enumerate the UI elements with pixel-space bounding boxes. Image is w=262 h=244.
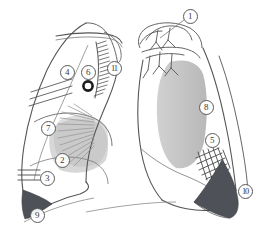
left-lung-outline [22, 23, 86, 200]
right-lung-consolidation-shading [157, 61, 207, 169]
left-lung-drawing [18, 23, 122, 222]
marker-5[interactable]: 5 [205, 133, 220, 148]
marker-10[interactable]: 10 [238, 184, 253, 199]
marker-11[interactable]: 11 [107, 61, 122, 76]
marker-1[interactable]: 1 [183, 9, 198, 24]
marker-4[interactable]: 4 [60, 65, 75, 80]
marker-9[interactable]: 9 [30, 208, 45, 223]
marker-7[interactable]: 7 [41, 121, 56, 136]
marker-3[interactable]: 3 [40, 171, 55, 186]
marker-8[interactable]: 8 [199, 100, 214, 115]
right-lung-lower-outline-extension [86, 202, 176, 212]
marker-6[interactable]: 6 [81, 65, 96, 80]
right-lung-drawing [86, 20, 248, 218]
left-lung-apex-curve [86, 23, 118, 66]
kerley-lines-group [29, 79, 72, 106]
lung-diagram-figure: 1 2 3 4 5 6 7 8 9 10 11 [0, 0, 262, 244]
right-apex-cap [138, 23, 202, 48]
marker-2[interactable]: 2 [55, 153, 70, 168]
cavitary-ring-lesion [83, 81, 92, 90]
left-apex-cap-curve [104, 32, 121, 64]
